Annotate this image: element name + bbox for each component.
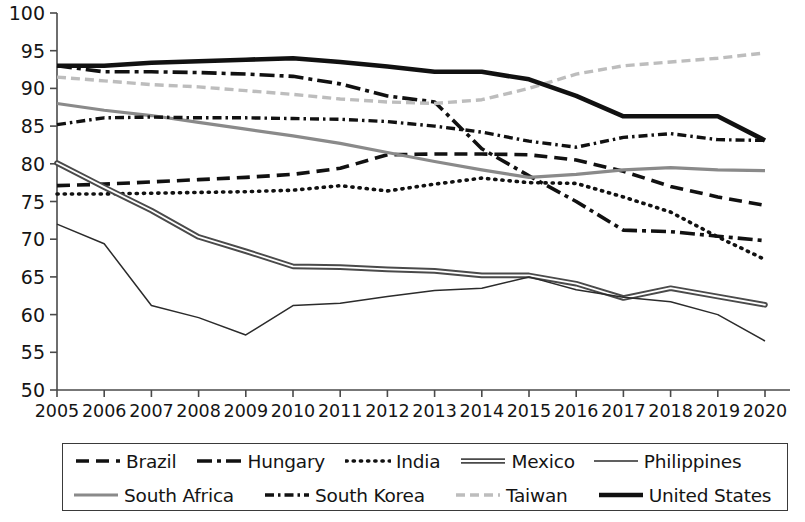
legend-swatch-wrap	[345, 453, 391, 469]
chart-container: 5055606570758085909510020052006200720082…	[0, 0, 805, 522]
y-axis-tick-label: 60	[21, 304, 45, 326]
legend-swatch-mexico	[460, 453, 506, 469]
y-axis-tick-label: 85	[21, 115, 45, 137]
legend-swatch-wrap	[73, 487, 119, 503]
x-axis-tick-label: 2016	[554, 401, 599, 421]
legend-swatch-wrap	[264, 487, 310, 503]
x-axis-tick-label: 2010	[271, 401, 316, 421]
legend-row: BrazilHungaryIndiaMexicoPhilippines	[63, 444, 787, 478]
x-axis-tick-label: 2018	[648, 401, 693, 421]
legend-swatch-wrap	[593, 453, 639, 469]
series-line-philippines	[57, 224, 765, 341]
x-axis-tick-label: 2008	[176, 401, 221, 421]
legend-swatch-philippines	[593, 453, 639, 469]
x-axis-tick-label: 2015	[507, 401, 552, 421]
x-axis-tick-label: 2011	[318, 401, 363, 421]
legend-label: South Africa	[124, 485, 234, 506]
legend-swatch-brazil	[75, 453, 121, 469]
y-axis-tick-label: 95	[21, 40, 45, 62]
legend-label: India	[396, 451, 440, 472]
legend-swatch-wrap	[75, 453, 121, 469]
y-axis-tick-label: 75	[21, 191, 45, 213]
legend-row: South AfricaSouth KoreaTaiwanUnited Stat…	[63, 478, 787, 512]
legend-item-taiwan[interactable]: Taiwan	[455, 485, 568, 506]
chart-legend: BrazilHungaryIndiaMexicoPhilippines Sout…	[62, 443, 788, 511]
x-axis-tick-label: 2014	[460, 401, 505, 421]
x-axis-tick-label: 2012	[365, 401, 410, 421]
legend-swatch-india	[345, 453, 391, 469]
x-axis-tick-label: 2013	[412, 401, 457, 421]
y-axis-tick-label: 100	[9, 2, 45, 24]
y-axis-tick-label: 65	[21, 266, 45, 288]
legend-item-brazil[interactable]: Brazil	[75, 451, 176, 472]
legend-item-south-africa[interactable]: South Africa	[73, 485, 234, 506]
y-axis-tick-label: 70	[21, 228, 45, 250]
x-axis-tick-label: 2009	[224, 401, 269, 421]
y-axis-tick-label: 80	[21, 153, 45, 175]
legend-item-south-korea[interactable]: South Korea	[264, 485, 425, 506]
legend-item-philippines[interactable]: Philippines	[593, 451, 741, 472]
legend-swatch-south-africa	[73, 487, 119, 503]
x-axis-tick-label: 2019	[696, 401, 741, 421]
legend-label: Hungary	[247, 451, 325, 472]
series-line-south-korea	[57, 117, 765, 147]
legend-label: Philippines	[644, 451, 741, 472]
legend-swatch-wrap	[455, 487, 501, 503]
series-line-brazil	[57, 154, 765, 205]
x-axis-tick-label: 2017	[601, 401, 646, 421]
legend-label: United States	[649, 485, 772, 506]
legend-item-mexico[interactable]: Mexico	[460, 451, 574, 472]
legend-swatch-wrap	[598, 487, 644, 503]
legend-swatch-united-states	[598, 487, 644, 503]
legend-swatch-taiwan	[455, 487, 501, 503]
x-axis-tick-label: 2006	[82, 401, 127, 421]
y-axis-tick-label: 50	[21, 379, 45, 401]
legend-label: Taiwan	[506, 485, 568, 506]
x-axis-tick-label: 2007	[129, 401, 174, 421]
y-axis-tick-label: 55	[21, 341, 45, 363]
legend-swatch-hungary	[196, 453, 242, 469]
legend-item-united-states[interactable]: United States	[598, 485, 772, 506]
y-axis-tick-label: 90	[21, 77, 45, 99]
legend-item-india[interactable]: India	[345, 451, 440, 472]
x-axis-tick-label: 2005	[35, 401, 80, 421]
legend-swatch-south-korea	[264, 487, 310, 503]
legend-swatch-wrap	[460, 453, 506, 469]
x-axis-tick-label: 2020	[743, 401, 788, 421]
legend-item-hungary[interactable]: Hungary	[196, 451, 325, 472]
legend-label: Brazil	[126, 451, 176, 472]
legend-swatch-wrap	[196, 453, 242, 469]
legend-label: South Korea	[315, 485, 425, 506]
legend-label: Mexico	[511, 451, 574, 472]
